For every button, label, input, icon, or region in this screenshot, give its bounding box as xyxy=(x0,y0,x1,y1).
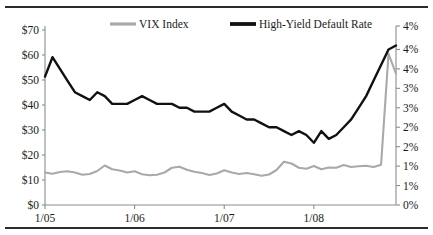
right-axis-tick-label: 4% xyxy=(403,43,419,55)
right-axis-tick-label: 0% xyxy=(403,199,419,211)
line-chart: $0$10$20$30$40$50$60$70 0%1%1%2%2%3%3%4%… xyxy=(0,8,433,226)
right-axis-tick-label: 2% xyxy=(403,141,419,153)
left-axis-tick-label: $20 xyxy=(22,149,40,161)
chart-svg-canvas: $0$10$20$30$40$50$60$70 0%1%1%2%2%3%3%4%… xyxy=(0,8,433,226)
legend-label: VIX Index xyxy=(139,18,189,30)
x-axis-tick-label: 1/05 xyxy=(35,212,56,224)
left-axis-tick-label: $40 xyxy=(22,99,40,111)
chart-figure-container: $0$10$20$30$40$50$60$70 0%1%1%2%2%3%3%4%… xyxy=(0,0,433,235)
right-axis-tick-label: 1% xyxy=(403,180,419,192)
x-axis-tick-label: 1/07 xyxy=(214,212,235,224)
x-axis: 1/051/061/071/08 xyxy=(35,205,396,224)
right-axis-tick-label: 1% xyxy=(403,160,419,172)
series-line-high-yield-default-rate xyxy=(45,46,396,143)
chart-legend: VIX IndexHigh-Yield Default Rate xyxy=(110,18,372,31)
right-axis-tick-label: 4% xyxy=(403,20,419,32)
series-lines xyxy=(45,46,396,176)
bottom-divider-rule xyxy=(5,227,428,229)
x-axis-tick-label: 1/06 xyxy=(124,212,145,224)
right-axis-tick-label: 4% xyxy=(403,63,419,75)
x-axis-tick-label: 1/08 xyxy=(304,212,325,224)
right-axis-tick-label: 2% xyxy=(403,121,419,133)
legend-label: High-Yield Default Rate xyxy=(259,18,372,31)
right-axis: 0%1%1%2%2%3%3%4%4%4% xyxy=(396,20,419,211)
right-axis-tick-label: 3% xyxy=(403,82,419,94)
left-axis-tick-label: $70 xyxy=(22,24,40,36)
right-axis-tick-label: 3% xyxy=(403,102,419,114)
left-axis-tick-label: $50 xyxy=(22,74,40,86)
left-axis-tick-label: $0 xyxy=(28,199,40,211)
left-axis: $0$10$20$30$40$50$60$70 xyxy=(22,24,45,211)
series-line-vix-index xyxy=(45,54,396,176)
left-axis-tick-label: $30 xyxy=(22,124,40,136)
left-axis-tick-label: $10 xyxy=(22,174,40,186)
left-axis-tick-label: $60 xyxy=(22,49,40,61)
